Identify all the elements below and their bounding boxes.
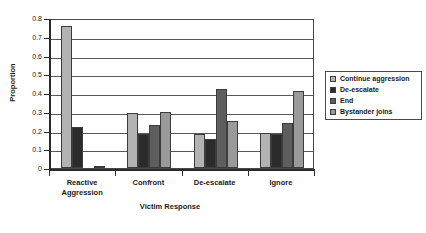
chart-container: 0.80.70.60.50.40.30.20.10 Proportion Rea… (0, 0, 426, 233)
y-axis-tick-label: 0 (2, 165, 42, 173)
bar (94, 166, 105, 168)
x-axis-tick-label: De-escalate (182, 178, 248, 188)
legend-swatch-icon (330, 109, 336, 115)
y-axis-tick-label: 0.2 (2, 128, 42, 136)
y-axis-tick (44, 94, 49, 95)
y-axis-tick-label: 0.8 (2, 15, 42, 23)
bar (61, 26, 72, 169)
y-axis-tick (44, 113, 49, 114)
legend-item-label: End (340, 97, 353, 105)
x-axis-tick (248, 171, 249, 176)
y-axis-line (49, 19, 51, 170)
legend-swatch-icon (330, 98, 336, 104)
bar (282, 123, 293, 168)
bar (127, 113, 138, 168)
x-axis-tick-label: Confront (115, 178, 181, 188)
legend-item-label: Continue aggression (340, 75, 410, 83)
gridline (50, 114, 313, 115)
legend-item-label: Bystander joins (340, 108, 393, 116)
y-axis-tick-label: 0.1 (2, 146, 42, 154)
x-axis-tick (182, 171, 183, 176)
plot-area (49, 19, 314, 169)
legend-item: De-escalate (330, 86, 418, 94)
legend-item-label: De-escalate (340, 86, 379, 94)
y-axis-tick (44, 132, 49, 133)
y-axis-tick (44, 38, 49, 39)
legend-swatch-icon (330, 87, 336, 93)
bar (216, 89, 227, 168)
x-axis-tick (49, 171, 50, 176)
x-axis-tick-label: Reactive Aggression (49, 178, 115, 198)
legend-item: End (330, 97, 418, 105)
y-axis-tick (44, 150, 49, 151)
x-axis-tick-label: Ignore (248, 178, 314, 188)
bar (138, 134, 149, 168)
bar (293, 91, 304, 168)
gridline (50, 58, 313, 59)
bar (194, 134, 205, 168)
x-axis-tick (115, 171, 116, 176)
bar (227, 121, 238, 168)
gridline (50, 39, 313, 40)
gridline (50, 76, 313, 77)
y-axis-title: Proportion (8, 53, 17, 113)
y-axis-tick (44, 75, 49, 76)
y-axis-tick (44, 19, 49, 20)
bar (260, 133, 271, 168)
chart-legend: Continue aggressionDe-escalateEndBystand… (325, 71, 422, 120)
legend-item: Continue aggression (330, 75, 418, 83)
y-axis-tick-label: 0.7 (2, 34, 42, 42)
legend-item: Bystander joins (330, 108, 418, 116)
x-axis-title: Victim Response (0, 202, 340, 211)
bar (160, 112, 171, 168)
bar (271, 134, 282, 168)
bar (149, 125, 160, 168)
legend-swatch-icon (330, 76, 336, 82)
bar (205, 139, 216, 168)
y-axis-tick (44, 57, 49, 58)
x-axis-tick (314, 171, 315, 176)
bar (72, 127, 83, 168)
gridline (50, 95, 313, 96)
